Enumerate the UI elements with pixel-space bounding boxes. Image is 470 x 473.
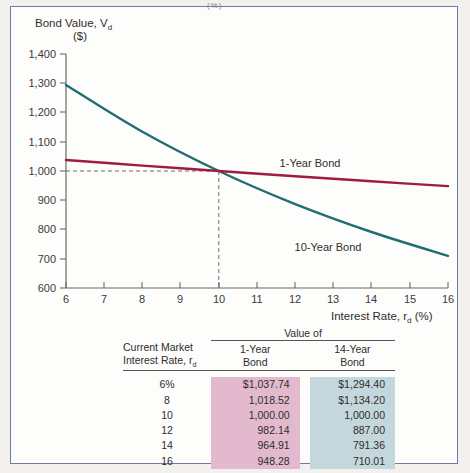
cell-one-year-value: 1,018.52 [211, 393, 300, 408]
table-row: 10 1,000.00 1,000.00 [123, 408, 395, 423]
header-fourteen-year-bond: 14-Year Bond [310, 341, 395, 371]
cell-rate: 10 [123, 408, 211, 423]
svg-text:1,000: 1,000 [28, 165, 56, 177]
svg-text:8: 8 [139, 293, 145, 305]
bond-value-chart: Bond Value, Vd ($) 1,400 1,300 [11, 7, 459, 327]
svg-text:1,300: 1,300 [28, 77, 56, 89]
x-axis-labels: 6 7 8 9 10 11 12 13 14 15 16 [63, 293, 454, 305]
header-one-year-bond: 1-Year Bond [211, 341, 300, 371]
svg-text:900: 900 [38, 194, 56, 206]
cell-fourteen-year-value: 710.01 [310, 454, 395, 469]
cell-fourteen-year-value: 887.00 [310, 423, 395, 438]
header-current-market-rate: Current Market Interest Rate, rd [123, 341, 211, 371]
series-line-1-year-bond [66, 160, 448, 186]
cell-rate: 14 [123, 438, 211, 453]
cell-one-year-value: 1,000.00 [211, 408, 300, 423]
figure-panel: (%) Bond Value, Vd ($) [10, 6, 458, 464]
cell-fourteen-year-value: 791.36 [310, 438, 395, 453]
annotation-10-year-bond: 10-Year Bond [295, 241, 362, 253]
svg-text:1,200: 1,200 [28, 106, 56, 118]
table-header-row: Current Market Interest Rate, rd 1-Year … [123, 341, 395, 371]
table-row: 8 1,018.52 $1,134.20 [123, 393, 395, 408]
bond-value-table: Value of Current Market Interest Rate, r… [123, 327, 395, 469]
table-row: 16 948.28 710.01 [123, 454, 395, 469]
svg-text:12: 12 [289, 293, 301, 305]
svg-text:700: 700 [38, 253, 56, 265]
svg-text:14: 14 [365, 293, 377, 305]
svg-text:16: 16 [442, 293, 454, 305]
svg-text:15: 15 [404, 293, 416, 305]
group-header-value-of: Value of [211, 327, 395, 341]
svg-text:7: 7 [101, 293, 107, 305]
svg-text:10: 10 [213, 293, 225, 305]
table-row: 6% $1,037.74 $1,294.40 [123, 377, 395, 392]
cell-fourteen-year-value: $1,134.20 [310, 393, 395, 408]
svg-text:9: 9 [177, 293, 183, 305]
cell-one-year-value: $1,037.74 [211, 377, 300, 392]
cell-rate: 16 [123, 454, 211, 469]
svg-text:11: 11 [251, 293, 262, 305]
cell-rate: 8 [123, 393, 211, 408]
y-axis-labels: 1,400 1,300 1,200 1,100 1,000 900 800 70… [28, 48, 56, 294]
x-axis-title: Interest Rate, rd (%) [331, 310, 433, 325]
svg-text:6: 6 [63, 293, 69, 305]
cell-rate: 6% [123, 377, 211, 392]
annotation-1-year-bond: 1-Year Bond [280, 157, 341, 169]
svg-text:1,100: 1,100 [28, 136, 56, 148]
svg-text:1,400: 1,400 [28, 48, 56, 60]
table-row: 12 982.14 887.00 [123, 423, 395, 438]
x-axis-ticks [66, 282, 448, 288]
series-line-10-year-bond [66, 85, 448, 256]
cell-one-year-value: 948.28 [211, 454, 300, 469]
cell-one-year-value: 964.91 [211, 438, 300, 453]
svg-text:800: 800 [38, 223, 56, 235]
cell-one-year-value: 982.14 [211, 423, 300, 438]
y-axis-unit: ($) [73, 30, 87, 42]
table-group-header-row: Value of [123, 327, 395, 341]
y-axis-ticks [60, 54, 66, 288]
table-element: Value of Current Market Interest Rate, r… [123, 327, 395, 469]
cell-fourteen-year-value: 1,000.00 [310, 408, 395, 423]
svg-text:13: 13 [327, 293, 339, 305]
cell-fourteen-year-value: $1,294.40 [310, 377, 395, 392]
table-row: 14 964.91 791.36 [123, 438, 395, 453]
svg-text:600: 600 [38, 282, 56, 294]
cell-rate: 12 [123, 423, 211, 438]
